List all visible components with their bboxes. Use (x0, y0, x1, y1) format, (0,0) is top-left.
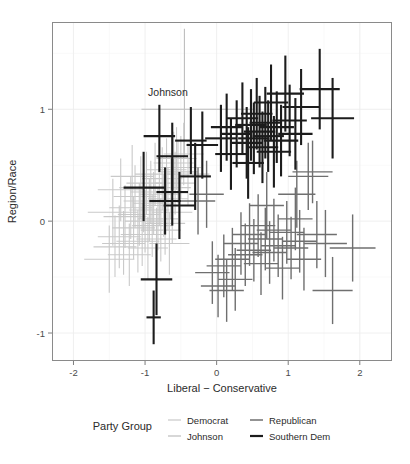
y-tick-label: -1 (37, 328, 45, 339)
legend-item-democrat[interactable]: Democrat (168, 415, 229, 426)
annotation-johnson: Johnson (148, 86, 188, 98)
legend-label: Southern Dem (269, 431, 330, 442)
x-tick-label: 1 (286, 367, 291, 378)
x-tick-label: 0 (214, 367, 219, 378)
legend-item-johnson[interactable]: Johnson (168, 431, 223, 442)
legend-label: Democrat (187, 415, 229, 426)
y-axis-title: Region/Race (6, 160, 18, 224)
x-axis-ticks: -2-1012 (69, 361, 362, 378)
legend: Party GroupDemocratRepublicanJohnsonSout… (93, 415, 331, 442)
y-tick-label: 0 (40, 216, 45, 227)
scatter-plot-figure: Johnson-2-1012-101Liberal − Conservative… (0, 0, 410, 464)
legend-item-republican[interactable]: Republican (250, 415, 317, 426)
x-tick-label: -2 (69, 367, 77, 378)
y-axis-ticks: -101 (37, 104, 52, 339)
chart-canvas: Johnson-2-1012-101Liberal − Conservative… (0, 0, 410, 464)
x-tick-label: 2 (357, 367, 362, 378)
plot-panel-background (52, 22, 392, 361)
x-axis-title: Liberal − Conservative (167, 382, 277, 394)
y-tick-label: 1 (40, 104, 45, 115)
legend-item-southern-dem[interactable]: Southern Dem (250, 431, 330, 442)
x-tick-label: -1 (141, 367, 149, 378)
legend-title: Party Group (93, 420, 152, 432)
legend-label: Republican (269, 415, 317, 426)
legend-label: Johnson (187, 431, 223, 442)
